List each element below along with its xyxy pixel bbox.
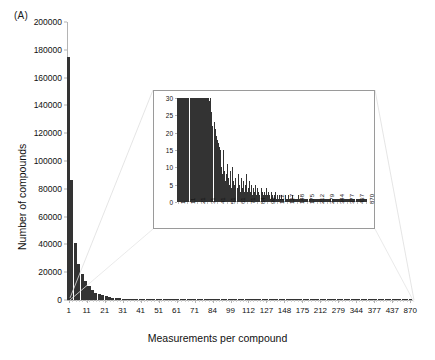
- x-axis-minor-tick: [304, 300, 305, 302]
- x-axis-tick-mark: [302, 300, 303, 303]
- inset-x-axis-tick-mark: [247, 202, 248, 204]
- x-axis-minor-tick: [185, 300, 186, 302]
- y-axis-tick-mark: [64, 49, 67, 50]
- inset-x-axis-tick-label: 41: [220, 197, 226, 204]
- x-axis-tick-label: 21: [100, 306, 109, 315]
- inset-x-axis-tick-label: 212: [319, 194, 325, 204]
- x-axis-minor-tick: [328, 300, 329, 302]
- inset-x-axis-tick-label: 175: [309, 194, 315, 204]
- y-axis-tick-label: 80000: [38, 184, 62, 194]
- inset-x-axis-tick-label: 51: [230, 197, 236, 204]
- x-axis-minor-tick: [117, 300, 118, 302]
- inset-x-axis-tick-mark: [366, 202, 367, 204]
- x-axis-minor-tick: [110, 300, 111, 302]
- x-axis-tick-mark: [213, 300, 214, 303]
- inset-x-axis-tick-label: 1: [180, 201, 186, 204]
- x-axis-tick-mark: [284, 300, 285, 303]
- x-axis-tick-label: 148: [278, 306, 291, 315]
- inset-x-axis-tick-mark: [277, 202, 278, 204]
- x-axis-minor-tick: [93, 300, 94, 302]
- x-axis-minor-tick: [325, 300, 326, 302]
- x-axis-minor-tick: [335, 300, 336, 302]
- figure-panel-a: (A) Number of compounds 0200004000060000…: [0, 0, 435, 360]
- x-axis-tick-label: 99: [226, 306, 235, 315]
- inset-x-axis-tick-label: 11: [190, 198, 196, 204]
- inset-x-axis-tick-label: 31: [210, 197, 216, 204]
- x-axis-tick-label: 870: [404, 306, 417, 315]
- inset-x-axis-tick-mark: [237, 202, 238, 204]
- x-axis-minor-tick: [79, 300, 80, 302]
- x-axis-minor-tick: [298, 300, 299, 302]
- x-axis-minor-tick: [96, 300, 97, 302]
- x-axis-tick-mark: [338, 300, 339, 303]
- x-axis-tick-label: 279: [332, 306, 345, 315]
- x-axis-minor-tick: [134, 300, 135, 302]
- x-axis-minor-tick: [168, 300, 169, 302]
- x-axis-tick-label: 61: [172, 306, 181, 315]
- x-axis-tick-label: 31: [118, 306, 127, 315]
- x-axis-minor-tick: [263, 300, 264, 302]
- x-axis-minor-tick: [161, 300, 162, 302]
- x-axis-minor-tick: [274, 300, 275, 302]
- inset-x-axis-tick-label: 84: [260, 197, 266, 204]
- y-axis-tick-label: 140000: [34, 100, 62, 110]
- inset-y-axis-tick-label: 20: [166, 129, 173, 136]
- x-axis-tick-mark: [392, 300, 393, 303]
- x-axis-tick-label: 112: [242, 306, 255, 315]
- inset-x-axis-tick-label: 127: [289, 194, 295, 204]
- x-axis-tick-mark: [195, 300, 196, 303]
- x-axis-tick-mark: [374, 300, 375, 303]
- x-axis-tick-label: 41: [136, 306, 145, 315]
- x-axis-tick-mark: [177, 300, 178, 303]
- x-axis-minor-tick: [311, 300, 312, 302]
- x-axis-tick-label: 377: [368, 306, 381, 315]
- x-axis-minor-tick: [386, 300, 387, 302]
- x-axis-minor-tick: [226, 300, 227, 302]
- inset-x-axis-tick-label: 61: [240, 197, 246, 204]
- y-axis-tick-label: 160000: [34, 73, 62, 83]
- x-axis-minor-tick: [407, 300, 408, 302]
- x-axis-minor-tick: [383, 300, 384, 302]
- x-axis-minor-tick: [397, 300, 398, 302]
- inset-x-axis-tick-label: 344: [339, 194, 345, 204]
- x-axis-minor-tick: [127, 300, 128, 302]
- x-axis-minor-tick: [89, 300, 90, 302]
- y-axis-tick-label: 120000: [34, 128, 62, 138]
- x-axis-minor-tick: [171, 300, 172, 302]
- inset-x-axis-tick-mark: [287, 202, 288, 204]
- x-axis-minor-tick: [332, 300, 333, 302]
- inset-chart-frame: 0510152025301112131415161718499112127148…: [153, 90, 375, 229]
- y-axis-tick-label: 20000: [38, 267, 62, 277]
- x-axis-minor-tick: [246, 300, 247, 302]
- x-axis-minor-tick: [390, 300, 391, 302]
- x-axis-title: Measurements per compound: [0, 332, 435, 344]
- x-axis-tick-label: 175: [296, 306, 309, 315]
- x-axis-tick-label: 71: [190, 306, 199, 315]
- x-axis-minor-tick: [380, 300, 381, 302]
- inset-x-axis-tick-mark: [357, 202, 358, 204]
- x-axis-minor-tick: [342, 300, 343, 302]
- x-axis-minor-tick: [308, 300, 309, 302]
- x-axis-minor-tick: [130, 300, 131, 302]
- x-axis-minor-tick: [181, 300, 182, 302]
- y-axis-title-text: Number of compounds: [16, 144, 28, 250]
- x-axis-minor-tick: [369, 300, 370, 302]
- inset-x-axis-tick-mark: [297, 202, 298, 204]
- x-axis-minor-tick: [366, 300, 367, 302]
- inset-y-axis-tick-label: 10: [166, 164, 173, 171]
- inset-x-axis-tick-mark: [307, 202, 308, 204]
- x-axis-minor-tick: [164, 300, 165, 302]
- inset-x-axis-tick-mark: [257, 202, 258, 204]
- x-axis-minor-tick: [199, 300, 200, 302]
- x-axis-minor-tick: [120, 300, 121, 302]
- x-axis-minor-tick: [82, 300, 83, 302]
- x-axis-minor-tick: [219, 300, 220, 302]
- inset-x-axis-tick-label: 870: [369, 194, 375, 204]
- x-axis-minor-tick: [106, 300, 107, 302]
- inset-x-axis-tick-mark: [267, 202, 268, 204]
- inset-x-axis-tick-mark: [187, 202, 188, 204]
- x-axis-minor-tick: [192, 300, 193, 302]
- x-axis-tick-mark: [87, 300, 88, 303]
- x-axis-minor-tick: [277, 300, 278, 302]
- x-axis-minor-tick: [76, 300, 77, 302]
